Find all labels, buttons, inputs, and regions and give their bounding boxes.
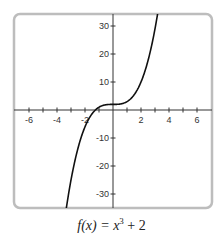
y-tick-label: 10 <box>99 77 109 87</box>
caption-prefix: f(x) = x <box>77 218 119 233</box>
x-tick-label: 4 <box>166 115 171 125</box>
function-caption: f(x) = x3 + 2 <box>0 216 223 234</box>
x-tick-label: 2 <box>138 115 143 125</box>
y-tick-label: -30 <box>96 189 109 199</box>
x-tick-label: 6 <box>194 115 199 125</box>
x-tick-label: -4 <box>53 115 61 125</box>
caption-suffix: + 2 <box>124 218 146 233</box>
y-tick-label: -10 <box>96 133 109 143</box>
x-tick-label: -6 <box>25 115 33 125</box>
y-tick-label: 30 <box>99 21 109 31</box>
function-plot: -6-4-2246302010-10-20-30 <box>0 0 223 215</box>
y-tick-label: 20 <box>99 49 109 59</box>
y-tick-label: -20 <box>96 161 109 171</box>
